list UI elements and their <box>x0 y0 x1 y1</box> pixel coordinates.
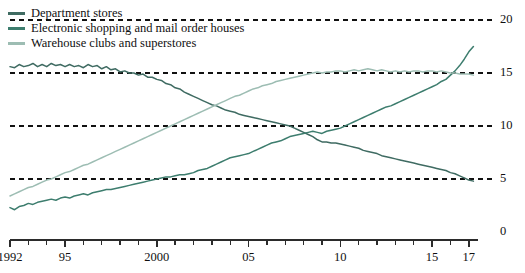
legend-label-electronic-shopping: Electronic shopping and mail order house… <box>31 21 245 35</box>
legend-swatch-electronic-shopping <box>8 27 25 30</box>
y-tick-label-15: 15 <box>500 65 513 80</box>
x-tick-label-15: 15 <box>426 250 439 265</box>
legend-item-warehouse-clubs: Warehouse clubs and superstores <box>8 36 245 50</box>
legend-swatch-warehouse-clubs <box>8 42 25 45</box>
x-tick-label-17: 17 <box>463 250 476 265</box>
legend-item-department-stores: Department stores <box>8 6 245 20</box>
chart-container: Department stores Electronic shopping an… <box>0 0 525 273</box>
legend-label-warehouse-clubs: Warehouse clubs and superstores <box>31 36 196 50</box>
x-tick-label-05: 05 <box>242 250 255 265</box>
series-line-0 <box>10 63 473 181</box>
legend-swatch-department-stores <box>8 12 25 15</box>
series-group <box>10 47 473 210</box>
x-tick-label-10: 10 <box>334 250 347 265</box>
y-tick-label-10: 10 <box>500 118 513 133</box>
x-tick-label-2000: 2000 <box>144 250 169 265</box>
y-tick-label-0: 0 <box>500 224 506 239</box>
y-tick-label-5: 5 <box>500 171 506 186</box>
legend-item-electronic-shopping: Electronic shopping and mail order house… <box>8 21 245 35</box>
y-tick-label-20: 20 <box>500 12 513 27</box>
x-axis-group <box>10 240 478 247</box>
legend-label-department-stores: Department stores <box>31 6 122 20</box>
x-tick-label-95: 95 <box>59 250 72 265</box>
series-line-2 <box>10 69 473 196</box>
x-tick-label-1992: 1992 <box>0 250 23 265</box>
chart-legend: Department stores Electronic shopping an… <box>8 6 245 51</box>
